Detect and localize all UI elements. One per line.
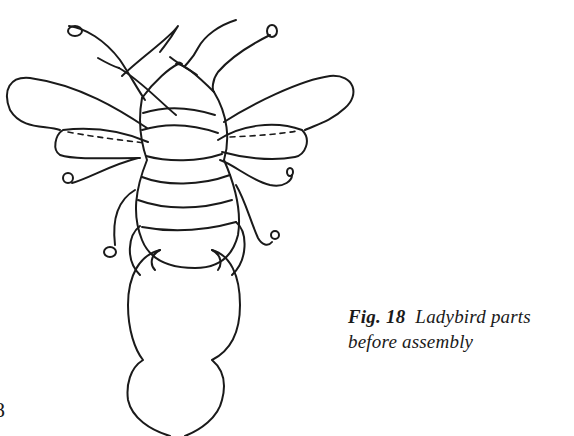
right-lower-wing: [218, 125, 307, 159]
ladybird-parts-illustration: [0, 0, 574, 436]
striped-body: [136, 92, 239, 268]
left-lower-wing: [55, 129, 148, 158]
figure-label: Fig. 18: [348, 306, 405, 327]
figure-caption: Fig. 18Ladybird parts before assembly: [348, 304, 574, 354]
page-number-fragment: 8: [0, 397, 5, 423]
tail-piece: [128, 250, 240, 436]
left-upper-wing: [7, 78, 147, 130]
right-upper-wing: [224, 76, 353, 130]
caption-text-line2: before assembly: [348, 331, 473, 352]
caption-text-line1: Ladybird parts: [415, 306, 531, 327]
